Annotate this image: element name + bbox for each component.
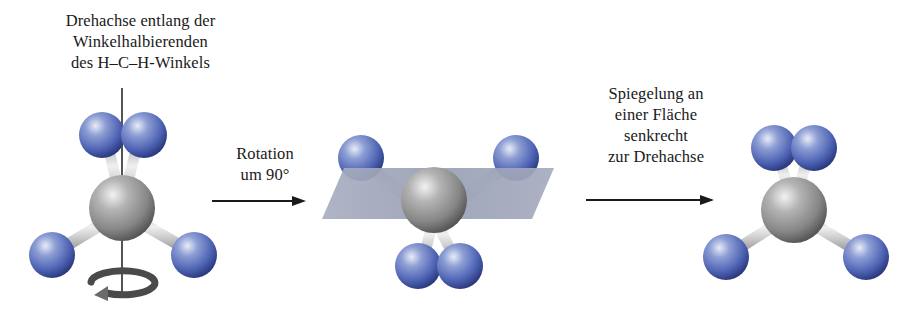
hydrogen-atom-upper-left <box>751 125 797 171</box>
hydrogen-atom-upper-right <box>791 125 837 171</box>
carbon-atom-center <box>89 175 155 241</box>
rotation-operation-arrow <box>212 194 306 208</box>
carbon-atom-center <box>761 177 827 243</box>
hydrogen-atom-lower-right <box>171 232 217 278</box>
hydrogen-atom-lower-right <box>437 243 483 289</box>
carbon-atom-center <box>401 167 467 233</box>
molecule-rotated <box>322 118 554 293</box>
hydrogen-atom-upper-right <box>121 112 167 158</box>
rotation-axis-caption: Drehachse entlang der Winkelhalbierenden… <box>8 10 273 73</box>
hydrogen-atom-lower-left <box>703 234 749 280</box>
hydrogen-atom-lower-right <box>843 234 889 280</box>
reflection-operation-arrow <box>586 193 714 207</box>
molecule-initial <box>28 80 238 305</box>
rotation-operation-caption: Rotation um 90° <box>203 143 327 185</box>
hydrogen-atom-upper-left <box>79 112 125 158</box>
symmetry-operation-figure: Drehachse entlang der Winkelhalbierenden… <box>0 0 898 319</box>
hydrogen-atom-lower-left <box>395 243 441 289</box>
rotation-direction-arrow <box>91 271 155 301</box>
molecule-reflected <box>706 118 896 288</box>
hydrogen-atom-lower-left <box>29 232 75 278</box>
